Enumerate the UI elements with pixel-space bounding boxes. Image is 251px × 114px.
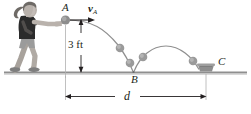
basket-icon — [197, 64, 215, 72]
label-point-c: C — [218, 56, 225, 67]
ball-trail-icon-4 — [189, 57, 198, 66]
ball-trail-icon-3 — [139, 53, 148, 62]
label-point-b: B — [131, 74, 138, 85]
label-height: 3 ft — [68, 39, 83, 50]
label-distance: d — [124, 90, 130, 102]
ball-icon — [61, 15, 70, 24]
velocity-subscript: A — [93, 8, 97, 15]
figure-canvas: A vA 3 ft B C d — [0, 0, 251, 114]
ground-line-icon — [4, 73, 247, 75]
ball-trail-icon-2 — [126, 59, 135, 68]
label-velocity: vA — [88, 3, 97, 14]
woman-throwing-icon — [10, 2, 62, 72]
ball-trail-icon-1 — [116, 44, 125, 53]
label-point-a: A — [62, 2, 69, 13]
